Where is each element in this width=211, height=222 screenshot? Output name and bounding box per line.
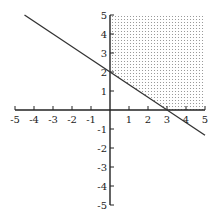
svg-text:1: 1 — [101, 86, 107, 97]
svg-text:-2: -2 — [97, 143, 107, 154]
inequality-graph: -5-4-3-2-112345-5-4-3-2-112345 — [0, 0, 211, 222]
svg-text:-4: -4 — [29, 114, 39, 125]
svg-text:-5: -5 — [97, 200, 107, 211]
svg-text:5: 5 — [101, 10, 107, 21]
svg-text:3: 3 — [101, 48, 107, 59]
svg-text:5: 5 — [202, 114, 208, 125]
svg-text:-3: -3 — [97, 162, 107, 173]
svg-text:4: 4 — [101, 29, 107, 40]
svg-text:-1: -1 — [86, 114, 96, 125]
svg-text:1: 1 — [126, 114, 132, 125]
svg-text:2: 2 — [145, 114, 151, 125]
svg-text:-5: -5 — [10, 114, 20, 125]
svg-text:3: 3 — [164, 114, 170, 125]
svg-text:-3: -3 — [48, 114, 58, 125]
svg-text:-1: -1 — [97, 124, 107, 135]
svg-text:2: 2 — [101, 67, 107, 78]
svg-text:-4: -4 — [97, 181, 107, 192]
svg-text:-2: -2 — [67, 114, 77, 125]
svg-text:4: 4 — [183, 114, 189, 125]
shaded-region — [110, 15, 205, 110]
